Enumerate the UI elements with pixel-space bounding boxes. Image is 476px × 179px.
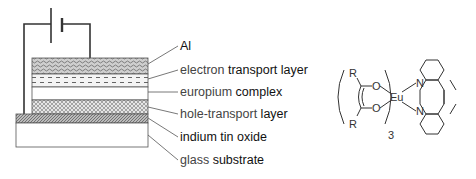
- leader-lines: [148, 46, 178, 160]
- label-al: Al: [180, 39, 191, 53]
- substituent-r-top: R: [349, 68, 357, 79]
- layer-al: [32, 58, 148, 74]
- metal-eu: Eu: [390, 92, 403, 103]
- label-electron-transport-layer: electron transport layer: [180, 63, 308, 77]
- left-paren: [338, 70, 344, 124]
- layer-eu: [32, 87, 148, 100]
- oxygen-bottom: O: [372, 103, 381, 114]
- layer-htl: [32, 100, 148, 114]
- nitrogen-top: N: [416, 78, 424, 89]
- layer-stack: [16, 58, 148, 147]
- nitrogen-bottom: N: [416, 106, 424, 117]
- diagram-canvas: Al electron transport layer europium com…: [0, 0, 476, 179]
- oxygen-top: O: [372, 81, 381, 92]
- layer-glass: [16, 123, 148, 147]
- substituent-r-bottom: R: [349, 119, 357, 130]
- label-glass-substrate: glass substrate: [180, 153, 264, 167]
- layer-ito: [16, 114, 148, 123]
- label-europium-complex: europium complex: [180, 85, 282, 99]
- layer-etl: [32, 74, 148, 87]
- label-hole-transport-layer: hole-transport layer: [180, 107, 288, 121]
- label-indium-tin-oxide: indium tin oxide: [180, 130, 267, 144]
- subscript-3: 3: [388, 130, 394, 141]
